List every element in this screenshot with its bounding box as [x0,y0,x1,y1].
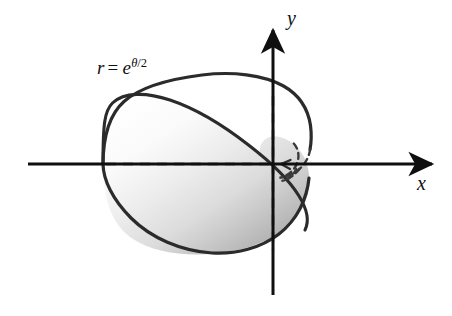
figure-canvas [0,0,452,316]
equation-base: e [123,57,132,78]
exponent-denominator: 2 [141,56,147,70]
polar-curve-figure: y x r=eθ/2 [0,0,452,316]
equation-relation: = [108,57,119,78]
equation-lhs: r [97,57,105,78]
y-axis-label: y [287,7,296,30]
equation-exponent: θ/2 [131,56,147,70]
x-axis-label: x [417,172,426,195]
shaded-region [103,94,309,254]
curve-equation-label: r=eθ/2 [97,57,147,79]
spiral-curve-right [310,126,311,150]
